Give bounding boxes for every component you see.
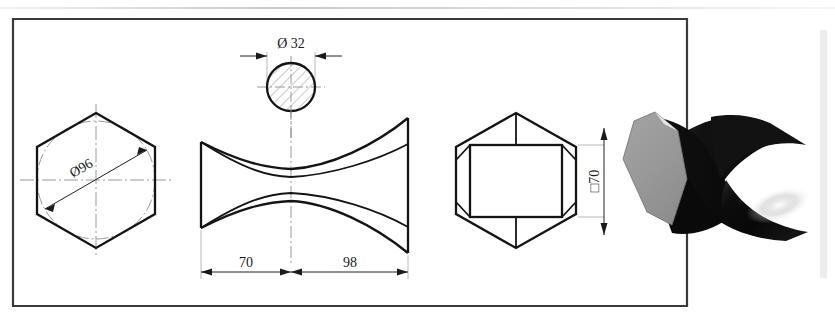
- hexagon-top-view: □70: [456, 113, 608, 248]
- inscribed-square: [470, 145, 562, 217]
- dimension-98: 98: [291, 255, 408, 276]
- upper-inner-hyperbola: [201, 142, 408, 177]
- ruling-line-top-right: [562, 145, 576, 160]
- waist-section-view: Ø 32: [240, 36, 342, 140]
- lower-inner-hyperbola: [201, 193, 408, 228]
- dimension-square-70: □70: [587, 128, 608, 235]
- render-upper-band: [711, 115, 806, 179]
- dimension-98-label: 98: [343, 255, 357, 270]
- solid-model-render: [623, 112, 816, 241]
- drawing-page: Ø96 Ø 32: [0, 0, 835, 320]
- upper-outer-hyperbola: [201, 118, 408, 169]
- page-right-edge-bar: [820, 30, 827, 278]
- hexagon-front-view: Ø96: [20, 104, 172, 256]
- dimension-square-70-label: □70: [587, 170, 602, 192]
- diameter-32-label: Ø 32: [277, 36, 305, 51]
- hyperboloid-side-view: 70 98: [201, 106, 408, 279]
- ruling-line-top-left: [456, 145, 470, 160]
- diameter-96-label: Ø96: [67, 156, 95, 181]
- diameter-32-dimension: Ø 32: [240, 36, 342, 60]
- dimension-70: 70: [201, 255, 291, 276]
- technical-drawing-canvas: Ø96 Ø 32: [0, 0, 835, 320]
- lower-outer-hyperbola: [201, 201, 408, 253]
- section-circle-hatched: [267, 63, 315, 111]
- dimension-70-label: 70: [239, 255, 253, 270]
